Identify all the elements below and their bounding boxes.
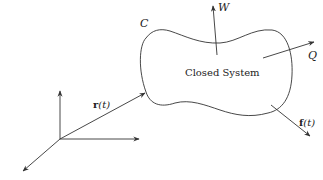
boundary-label: C: [140, 18, 148, 29]
force-vector-label: f(t): [299, 118, 315, 128]
work-label: W: [218, 2, 229, 13]
system-label: Closed System: [185, 68, 260, 78]
heat-label: Q: [308, 50, 317, 61]
heat-arrow: [263, 42, 314, 58]
diagram-svg: [0, 0, 323, 180]
coordinate-axes: [23, 91, 139, 171]
diagram-canvas: C W Q Closed System r(t) f(t): [0, 0, 323, 180]
force-vector-arg: (t): [303, 117, 315, 128]
position-vector-arg: (t): [98, 99, 110, 110]
x-axis-arrow: [23, 139, 60, 171]
work-arrow: [213, 6, 217, 55]
position-vector-label: r(t): [93, 100, 110, 110]
